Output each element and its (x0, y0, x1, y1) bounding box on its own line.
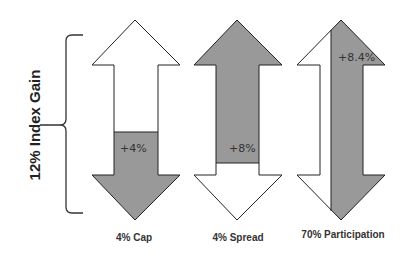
value-label-cap: +4% (120, 142, 147, 155)
arrow-spread (190, 15, 290, 220)
caption-cap: 4% Cap (116, 232, 152, 243)
arrow-participation (297, 15, 391, 225)
value-label-spread: +8% (229, 142, 256, 155)
value-label-participation: +8.4% (338, 51, 375, 64)
brace-icon (40, 35, 83, 213)
diagram-canvas (0, 0, 408, 260)
arrow-cap (80, 20, 190, 232)
caption-spread: 4% Spread (212, 232, 263, 243)
y-axis-label: 12% Index Gain (26, 70, 43, 181)
caption-participation: 70% Participation (301, 229, 384, 240)
